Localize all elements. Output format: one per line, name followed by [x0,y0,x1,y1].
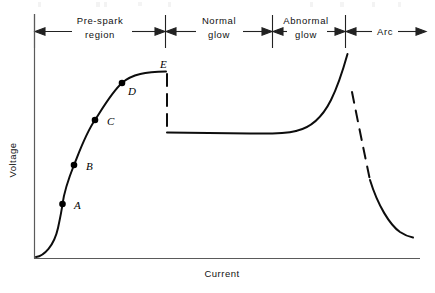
chart-background [0,0,435,293]
region-label-normal-glow-line1: Normal [202,15,236,26]
marker-point-d [119,80,126,87]
marker-label-a: A [73,199,81,211]
figure-container: Pre-spark region Normal glow Abnormal gl… [0,0,435,293]
region-label-arc: Arc [377,26,393,37]
region-label-normal-glow-line2: glow [208,29,230,40]
region-label-abnormal-glow-line2: glow [295,29,317,40]
marker-point-a [59,201,66,208]
marker-label-d: D [127,85,136,97]
y-axis-title: Voltage [7,142,18,177]
marker-point-c [92,117,99,124]
region-label-pre-spark-line1: Pre-spark [77,15,124,26]
voltage-current-discharge-chart: Pre-spark region Normal glow Abnormal gl… [0,0,435,293]
marker-label-c: C [107,115,115,127]
region-label-pre-spark-line2: region [85,29,115,40]
marker-point-b [71,162,78,169]
region-label-abnormal-glow-line1: Abnormal [283,15,328,26]
marker-label-e: E [159,58,167,70]
x-axis-title: Current [204,268,239,279]
marker-label-b: B [86,160,93,172]
